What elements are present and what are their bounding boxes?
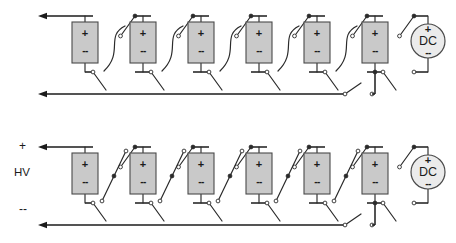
top-circuit-cell-6[interactable]: +-- — [362, 22, 388, 63]
top-circuit-cell-5-plus-glyph: + — [314, 27, 320, 39]
top-circuit-series-switch-3-blade[interactable] — [220, 26, 241, 71]
top-circuit-top-switch-5-hinge — [365, 14, 369, 18]
top-circuit-cell-2[interactable]: +-- — [130, 22, 156, 63]
bottom-circuit-out-switch-hinge — [343, 223, 347, 227]
bottom-circuit-label-positive: + — [19, 139, 26, 153]
bottom-circuit-cell-1-minus-glyph: -- — [82, 176, 88, 187]
top-circuit-cell-6-minus-glyph: -- — [372, 45, 378, 56]
bottom-circuit-series-switch-3 — [216, 149, 244, 203]
bottom-circuit-cell-5[interactable]: +-- — [304, 153, 330, 194]
top-circuit-top-switch-6-hinge — [412, 14, 416, 18]
bottom-circuit-series-switch-5-lower-node — [332, 199, 336, 203]
bottom-circuit-cell-2-plus-glyph: + — [140, 158, 146, 170]
top-circuit-top-switch-2-contact — [177, 34, 181, 38]
top-circuit-bot-switch-4-blade[interactable] — [267, 72, 280, 90]
top-circuit-cell-1-minus-glyph: -- — [82, 45, 88, 56]
top-circuit-cell-3[interactable]: +-- — [188, 22, 214, 63]
bottom-circuit-series-switch-2 — [158, 149, 186, 203]
bottom-circuit-cell-1-plus-glyph: + — [82, 158, 88, 170]
top-circuit-top-switch-1-hinge — [133, 14, 137, 18]
bottom-circuit-cell-2[interactable]: +-- — [130, 153, 156, 194]
top-circuit-bot-switch-6-contact — [381, 70, 385, 74]
top-circuit-series-switch-4-blade[interactable] — [278, 26, 299, 71]
bottom-circuit-cell-3-plus-glyph: + — [198, 158, 204, 170]
bottom-circuit-bot-switch-6-far — [412, 201, 416, 205]
bottom-circuit-dc-source-minus-glyph: -- — [425, 178, 431, 189]
bottom-circuit-top-switch-2-hinge — [191, 145, 195, 149]
top-circuit-dc-source[interactable]: +DC-- — [411, 23, 445, 58]
top-circuit-cell-1[interactable]: +-- — [72, 22, 98, 63]
top-circuit-bot-switch-5-blade[interactable] — [325, 72, 338, 90]
top-circuit-top-switch-6-blade[interactable] — [401, 16, 414, 34]
bottom-circuit-cell-4-plus-glyph: + — [256, 158, 262, 170]
top-circuit-top-switch-1-contact — [119, 34, 123, 38]
bottom-circuit-top-switch-1-hinge — [133, 145, 137, 149]
bottom-circuit-bot-switch-2-blade[interactable] — [151, 203, 164, 221]
bottom-circuit-cell-5-minus-glyph: -- — [314, 176, 320, 187]
bottom-circuit-cell-3-minus-glyph: -- — [198, 176, 204, 187]
bottom-circuit-series-switch-4-upper-node — [298, 149, 302, 153]
bottom-circuit-bot-switch-1-contact — [91, 201, 95, 205]
top-circuit-positive-output-arrow — [38, 13, 47, 19]
bottom-circuit-top-switch-6-contact — [398, 165, 402, 169]
bottom-circuit-label-negative: -- — [19, 202, 27, 216]
bottom-circuit-bot-switch-3-contact — [207, 201, 211, 205]
bottom-circuit-top-switch-6-blade[interactable] — [401, 147, 414, 165]
top-circuit-series-switch-5-blade[interactable] — [336, 26, 357, 71]
top-circuit-cell-1-plus-glyph: + — [82, 27, 88, 39]
top-circuit-bot-switch-6-far — [412, 70, 416, 74]
top-circuit-bot-switch-2-blade[interactable] — [151, 72, 164, 90]
bottom-circuit-bot-switch-4-blade[interactable] — [267, 203, 280, 221]
top-circuit-cell-3-minus-glyph: -- — [198, 45, 204, 56]
top-circuit-series-switch-1-blade[interactable] — [104, 26, 125, 71]
bottom-circuit-series-switch-1-lower-node — [100, 199, 104, 203]
bottom-circuit-series-switch-5-upper-node — [356, 149, 360, 153]
top-circuit-bot-switch-6-blade[interactable] — [383, 72, 396, 90]
bottom-circuit-cell-4[interactable]: +-- — [246, 153, 272, 194]
bottom-circuit-series-switch-4-lower-node — [274, 199, 278, 203]
bottom-circuit-out-switch-blade[interactable] — [345, 214, 361, 225]
bottom-circuit-dc-source[interactable]: +DC-- — [411, 154, 445, 189]
top-circuit-cell-5[interactable]: +-- — [304, 22, 330, 63]
bottom-circuit-bot-switch-5-contact — [323, 201, 327, 205]
bottom-circuit-cell-1[interactable]: +-- — [72, 153, 98, 194]
bottom-circuit-bot-switch-5-blade[interactable] — [325, 203, 338, 221]
bottom-circuit-series-switch-3-lower-node — [216, 199, 220, 203]
top-circuit-cell-3-plus-glyph: + — [198, 27, 204, 39]
bottom-circuit-series-switch-2-lower-node — [158, 199, 162, 203]
top-circuit-cell-5-minus-glyph: -- — [314, 45, 320, 56]
top-circuit-out-switch-blade[interactable] — [345, 83, 361, 94]
top-circuit-top-switch-2-hinge — [191, 14, 195, 18]
top-circuit-series-switch-1 — [104, 26, 125, 71]
bottom-circuit-cell-5-plus-glyph: + — [314, 158, 320, 170]
bottom-circuit: +--+--+--+--+--+--+DC--+HV-- — [14, 139, 445, 228]
top-circuit-cell-4[interactable]: +-- — [246, 22, 272, 63]
top-circuit-bot-switch-4-contact — [265, 70, 269, 74]
bottom-circuit-bot-switch-6-contact — [381, 201, 385, 205]
top-circuit-series-switch-2-blade[interactable] — [162, 26, 183, 71]
bottom-circuit-series-switch-4-node — [286, 174, 290, 178]
top-circuit-cell-4-plus-glyph: + — [256, 27, 262, 39]
bottom-circuit-negative-output-arrow — [38, 222, 47, 228]
top-circuit-cell-2-minus-glyph: -- — [140, 45, 146, 56]
bottom-circuit-series-switch-3-upper-node — [240, 149, 244, 153]
top-circuit-top-switch-6-contact — [398, 34, 402, 38]
top-circuit-series-switch-3 — [220, 26, 241, 71]
top-circuit-top-switch-3-contact — [235, 34, 239, 38]
bottom-circuit-label-hv: HV — [14, 166, 30, 178]
bottom-circuit-bot-switch-3-blade[interactable] — [209, 203, 222, 221]
bottom-circuit-bot-switch-1-blade[interactable] — [93, 203, 106, 221]
top-circuit-series-switch-4 — [278, 26, 299, 71]
bottom-circuit-bot-switch-6-blade[interactable] — [383, 203, 396, 221]
bottom-circuit-cell-3[interactable]: +-- — [188, 153, 214, 194]
bottom-circuit-cell-4-minus-glyph: -- — [256, 176, 262, 187]
bottom-circuit-series-switch-4 — [274, 149, 302, 203]
bottom-circuit-top-switch-6-hinge — [412, 145, 416, 149]
bottom-circuit-positive-output-arrow — [38, 144, 47, 150]
top-circuit-bot-switch-1-blade[interactable] — [93, 72, 106, 90]
top-circuit-bot-switch-3-blade[interactable] — [209, 72, 222, 90]
top-circuit-top-switch-3-hinge — [249, 14, 253, 18]
bottom-circuit-series-switch-1-upper-node — [124, 149, 128, 153]
diagram-canvas: +--+--+--+--+--+--+DC--+--+--+--+--+--+-… — [0, 0, 456, 243]
bottom-circuit-cell-6[interactable]: +-- — [362, 153, 388, 194]
